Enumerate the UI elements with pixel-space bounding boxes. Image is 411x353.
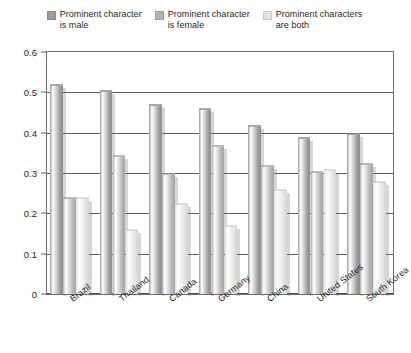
bar-top-edge <box>63 197 76 199</box>
y-tick-label: 0.5 <box>24 87 37 98</box>
bar-face <box>360 165 373 294</box>
bar-top-edge <box>261 165 274 167</box>
y-tick-label: 0.4 <box>24 127 37 138</box>
y-tick-label: 0 <box>32 289 37 300</box>
legend-entry-female: Prominent character is female <box>155 9 250 30</box>
y-tick-label: 0.6 <box>24 47 37 58</box>
y-tick-label: 0.3 <box>24 168 37 179</box>
bar <box>162 175 175 294</box>
bar-face <box>100 92 113 294</box>
bar-shadow <box>89 201 92 296</box>
bar-group <box>100 52 139 294</box>
bar-group <box>199 52 238 294</box>
bar-group <box>149 52 188 294</box>
legend-label-both: Prominent characters are both <box>276 9 363 30</box>
bar-face <box>248 127 261 294</box>
bar <box>248 127 261 294</box>
bar-face <box>50 86 63 294</box>
bar-top-edge <box>149 104 162 106</box>
bar <box>261 167 274 294</box>
bar <box>76 199 89 294</box>
bar <box>311 173 324 294</box>
bar-top-edge <box>373 181 386 183</box>
bar <box>100 92 113 294</box>
bar-top-edge <box>248 125 261 127</box>
legend-swatch-icon <box>47 11 56 20</box>
y-tick-label: 0.1 <box>24 248 37 259</box>
bar <box>360 165 373 294</box>
bar-group <box>50 52 89 294</box>
legend-entry-male: Prominent character is male <box>47 9 142 30</box>
bar-top-edge <box>162 173 175 175</box>
bar-top-edge <box>175 203 188 205</box>
bar-top-edge <box>274 189 287 191</box>
bar-group <box>347 52 386 294</box>
bar-top-edge <box>212 145 225 147</box>
bar <box>199 110 212 294</box>
bar-face <box>76 199 89 294</box>
legend-label-male: Prominent character is male <box>60 9 142 30</box>
y-axis: 00.10.20.30.40.50.6 <box>0 51 46 295</box>
bar-group <box>248 52 287 294</box>
bar-group <box>298 52 337 294</box>
bar-face <box>199 110 212 294</box>
bar-face <box>311 173 324 294</box>
bar <box>298 139 311 294</box>
bar-top-edge <box>225 225 238 227</box>
bar-top-edge <box>360 163 373 165</box>
legend-swatch-icon <box>263 11 272 20</box>
legend-entry-both: Prominent characters are both <box>263 9 363 30</box>
bar <box>149 106 162 294</box>
bar <box>324 171 337 294</box>
bar-top-edge <box>347 133 360 135</box>
legend-swatch-icon <box>155 11 164 20</box>
bar-face <box>149 106 162 294</box>
x-axis-labels: BrazilThailandCanadaGermanyChinaUnited S… <box>47 296 393 353</box>
bar-top-edge <box>199 108 212 110</box>
bar-shadow <box>287 193 290 296</box>
bar-top-edge <box>126 229 139 231</box>
bar-face <box>274 191 287 294</box>
bar-face <box>162 175 175 294</box>
bar-top-edge <box>50 84 63 86</box>
bar-face <box>113 157 126 294</box>
bar-top-edge <box>113 155 126 157</box>
bar-top-edge <box>324 169 337 171</box>
bar-face <box>373 183 386 294</box>
legend-label-female: Prominent character is female <box>168 9 250 30</box>
bar-top-edge <box>311 171 324 173</box>
bar-face <box>261 167 274 294</box>
bar <box>212 147 225 294</box>
bar-face <box>63 199 76 294</box>
bar <box>50 86 63 294</box>
bar-top-edge <box>100 90 113 92</box>
y-tick-label: 0.2 <box>24 208 37 219</box>
bar <box>274 191 287 294</box>
bar-face <box>298 139 311 294</box>
bar-face <box>324 171 337 294</box>
bar-top-edge <box>76 197 89 199</box>
chart-legend: Prominent character is male Prominent ch… <box>0 9 409 39</box>
bar <box>113 157 126 294</box>
bar-top-edge <box>298 137 311 139</box>
bar <box>373 183 386 294</box>
bar-face <box>212 147 225 294</box>
bars-layer <box>47 52 393 294</box>
bar <box>63 199 76 294</box>
